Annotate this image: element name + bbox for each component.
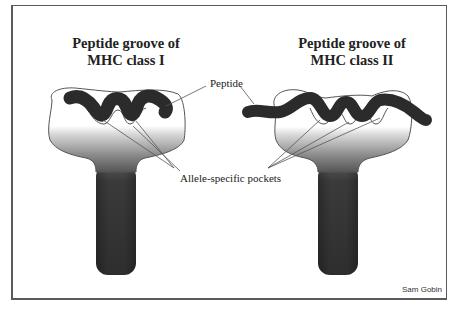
peptide-label: Peptide [210, 77, 243, 89]
mhc-diagram [0, 0, 459, 312]
artist-credit: Sam Gobin [402, 285, 442, 294]
mhc-class-1-molecule [49, 88, 185, 275]
allele-specific-pockets-label: Allele-specific pockets [180, 172, 281, 184]
